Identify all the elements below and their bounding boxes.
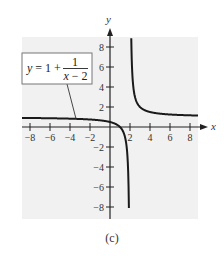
y-tick-label: −2 [93, 142, 104, 153]
x-tick-label: 4 [148, 132, 153, 143]
y-tick-label: −8 [93, 202, 104, 213]
x-axis-arrow-icon [200, 124, 208, 130]
x-axis-label: x [210, 120, 216, 132]
x-tick-label: −4 [65, 132, 76, 143]
function-graph: −8−6−4−224688642−2−4−6−8 y = 1 +1x − 2 x… [0, 0, 224, 261]
x-tick-label: 8 [188, 132, 193, 143]
x-tick-label: −6 [45, 132, 56, 143]
y-axis-label: y [105, 13, 111, 25]
figure-caption: (c) [0, 231, 224, 246]
y-tick-label: 2 [99, 102, 104, 113]
equation-denominator: x − 2 [62, 69, 87, 83]
y-tick-label: −4 [93, 162, 104, 173]
y-tick-label: 6 [99, 62, 104, 73]
y-tick-label: 4 [99, 82, 104, 93]
equation-lhs: y = 1 + [26, 61, 61, 75]
x-tick-label: −8 [25, 132, 36, 143]
x-tick-label: 2 [128, 132, 133, 143]
x-tick-label: 6 [168, 132, 173, 143]
y-tick-label: −6 [93, 182, 104, 193]
equation-numerator: 1 [72, 55, 78, 69]
y-tick-label: 8 [99, 42, 104, 53]
y-axis-arrow-icon [107, 28, 113, 36]
